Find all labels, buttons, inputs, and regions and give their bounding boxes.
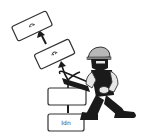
box-bottom-label: Idn — [61, 119, 71, 126]
box-middle — [48, 88, 86, 105]
worker-figure — [60, 47, 137, 120]
box-bottom: Idn — [48, 114, 84, 131]
illustration-canvas: Idn — [0, 0, 153, 136]
worker-sawing-boxes-illustration: Idn — [0, 0, 153, 136]
box-top — [11, 11, 52, 42]
box-upper — [34, 39, 75, 70]
